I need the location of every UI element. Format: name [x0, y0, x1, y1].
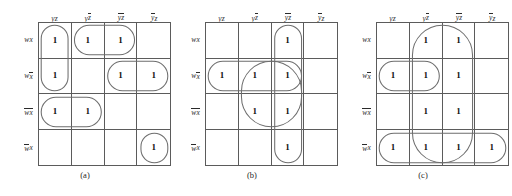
kmap-cell-r1-c1[interactable]: 1 — [239, 59, 272, 95]
cell-value: 1 — [456, 36, 461, 45]
cell-value: 1 — [85, 36, 90, 45]
cell-value: 1 — [53, 71, 58, 80]
column-header-3: yz — [138, 6, 171, 22]
kmap-cell-r1-c3[interactable]: 1 — [304, 59, 337, 95]
column-header-row: yzyzyzyz — [205, 6, 338, 22]
kmap-cell-r1-c1[interactable]: 1 — [72, 59, 105, 95]
kmap-cell-r3-c0[interactable]: 1 — [206, 130, 239, 166]
column-header-1: yz — [71, 6, 104, 22]
kmap-cell-r1-c2[interactable]: 1 — [105, 59, 138, 95]
cell-value: 1 — [151, 71, 156, 80]
kmap-cell-r0-c2[interactable]: 1 — [105, 23, 138, 59]
cell-value: 1 — [456, 143, 461, 152]
cell-value: 1 — [489, 143, 494, 152]
row-header-2: wx — [340, 94, 374, 130]
map-a: yzyzyzyzwxwxwxwx1111111111111111(a) — [0, 0, 170, 196]
kmap-cell-r2-c3[interactable]: 1 — [475, 94, 508, 130]
kmap-cell-r3-c3[interactable]: 1 — [137, 130, 170, 166]
cell-value: 1 — [285, 36, 290, 45]
column-header-0: yz — [376, 6, 409, 22]
kmap-cell-r0-c0[interactable]: 1 — [206, 23, 239, 59]
row-header-column: wxwxwxwx — [340, 22, 374, 166]
column-header-row: yzyzyzyz — [376, 6, 509, 22]
kmap-cell-r3-c1[interactable]: 1 — [239, 130, 272, 166]
row-header-0: wx — [169, 22, 203, 58]
kmap-cell-r3-c2[interactable]: 1 — [443, 130, 476, 166]
cell-value: 1 — [252, 107, 257, 116]
kmap-cell-r1-c2[interactable]: 1 — [272, 59, 305, 95]
column-header-row: yzyzyzyz — [38, 6, 171, 22]
cell-value: 1 — [53, 107, 58, 116]
column-header-2: yz — [105, 6, 138, 22]
cell-value: 1 — [456, 107, 461, 116]
kmap-cell-r2-c3[interactable]: 1 — [304, 94, 337, 130]
map-caption: (c) — [338, 170, 508, 180]
map-b: yzyzyzyzwxwxwxwx1111111111111111(b) — [167, 0, 337, 196]
row-header-1: wx — [340, 58, 374, 94]
kmap-cell-r2-c2[interactable]: 1 — [105, 94, 138, 130]
kmap-cell-r1-c0[interactable]: 1 — [377, 59, 410, 95]
map-caption: (b) — [167, 170, 337, 180]
kmap-cell-r0-c0[interactable]: 1 — [39, 23, 72, 59]
kmap-cell-r1-c2[interactable]: 1 — [443, 59, 476, 95]
kmap-cell-r3-c2[interactable]: 1 — [272, 130, 305, 166]
kmap-cell-r0-c3[interactable]: 1 — [475, 23, 508, 59]
kmap-cell-r3-c1[interactable]: 1 — [410, 130, 443, 166]
cell-value: 1 — [423, 107, 428, 116]
cell-value: 1 — [151, 143, 156, 152]
cell-value: 1 — [423, 143, 428, 152]
kmap-cell-r3-c0[interactable]: 1 — [377, 130, 410, 166]
row-header-1: wx — [169, 58, 203, 94]
kmap-cell-r3-c0[interactable]: 1 — [39, 130, 72, 166]
kmap-cell-r3-c1[interactable]: 1 — [72, 130, 105, 166]
kmap-cell-r2-c0[interactable]: 1 — [206, 94, 239, 130]
cell-value: 1 — [285, 71, 290, 80]
column-header-1: yz — [238, 6, 271, 22]
column-header-2: yz — [443, 6, 476, 22]
row-header-3: wx — [169, 130, 203, 166]
kmap-cell-r2-c0[interactable]: 1 — [377, 94, 410, 130]
kmap-cell-r2-c3[interactable]: 1 — [137, 94, 170, 130]
column-header-3: yz — [305, 6, 338, 22]
kmap-cell-r1-c3[interactable]: 1 — [475, 59, 508, 95]
kmap-cell-r2-c1[interactable]: 1 — [239, 94, 272, 130]
kmap-cell-r2-c1[interactable]: 1 — [72, 94, 105, 130]
cell-value: 1 — [220, 71, 225, 80]
kmap-cell-r0-c0[interactable]: 1 — [377, 23, 410, 59]
row-header-3: wx — [2, 130, 36, 166]
map-caption: (a) — [0, 170, 170, 180]
column-header-1: yz — [409, 6, 442, 22]
row-header-column: wxwxwxwx — [2, 22, 36, 166]
kmap-grid: 1111111111111111 — [38, 22, 171, 166]
kmap-cell-r0-c3[interactable]: 1 — [137, 23, 170, 59]
kmap-cell-r1-c0[interactable]: 1 — [39, 59, 72, 95]
kmap-cell-r0-c1[interactable]: 1 — [72, 23, 105, 59]
cell-value: 1 — [456, 71, 461, 80]
cell-value: 1 — [285, 143, 290, 152]
column-header-0: yz — [205, 6, 238, 22]
kmap-cell-r0-c3[interactable]: 1 — [304, 23, 337, 59]
kmap-cell-r3-c2[interactable]: 1 — [105, 130, 138, 166]
kmap-cell-r1-c0[interactable]: 1 — [206, 59, 239, 95]
kmap-cell-r0-c1[interactable]: 1 — [239, 23, 272, 59]
cell-value: 1 — [423, 71, 428, 80]
kmap-cell-r3-c3[interactable]: 1 — [304, 130, 337, 166]
kmap-cell-r2-c2[interactable]: 1 — [272, 94, 305, 130]
cell-value: 1 — [391, 71, 396, 80]
kmap-cell-r0-c2[interactable]: 1 — [443, 23, 476, 59]
kmap-figure: yzyzyzyzwxwxwxwx1111111111111111(a)yzyzy… — [0, 0, 512, 196]
kmap-cell-r2-c1[interactable]: 1 — [410, 94, 443, 130]
kmap-grid: 1111111111111111 — [376, 22, 509, 166]
kmap-cell-r1-c1[interactable]: 1 — [410, 59, 443, 95]
row-header-column: wxwxwxwx — [169, 22, 203, 166]
kmap-cell-r1-c3[interactable]: 1 — [137, 59, 170, 95]
cell-value: 1 — [53, 36, 58, 45]
row-header-2: wx — [169, 94, 203, 130]
column-header-0: yz — [38, 6, 71, 22]
kmap-cell-r2-c0[interactable]: 1 — [39, 94, 72, 130]
kmap-cell-r0-c2[interactable]: 1 — [272, 23, 305, 59]
kmap-cell-r3-c3[interactable]: 1 — [475, 130, 508, 166]
kmap-cell-r0-c1[interactable]: 1 — [410, 23, 443, 59]
cell-value: 1 — [118, 71, 123, 80]
kmap-cell-r2-c2[interactable]: 1 — [443, 94, 476, 130]
